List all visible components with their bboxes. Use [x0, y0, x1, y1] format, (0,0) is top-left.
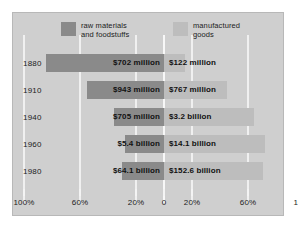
- row-value-raw-materials: $705 million: [113, 112, 160, 121]
- axis-tick-label: 60%: [240, 198, 256, 207]
- axis-tick-label: 0: [162, 198, 167, 207]
- axis-tick: [163, 189, 165, 196]
- chart-row: 1910$943 million$767 million: [13, 78, 285, 104]
- legend-label-manufactured-goods: manufactured goods: [193, 21, 240, 39]
- axis-tick: [79, 189, 81, 196]
- legend-item-raw-materials: raw materials and foodstuffs: [61, 21, 129, 39]
- row-value-raw-materials: $702 million: [113, 58, 160, 67]
- chart-legend: raw materials and foodstuffs manufacture…: [13, 18, 285, 48]
- chart-row: 1980$64.1 billion$152.6 billion: [13, 159, 285, 185]
- row-year-label: 1910: [23, 86, 57, 95]
- axis-tick: [191, 189, 193, 196]
- legend-label-raw-materials: raw materials and foodstuffs: [81, 21, 129, 39]
- row-value-raw-materials: $64.1 billion: [113, 166, 160, 175]
- axis-tick-label: 60%: [72, 198, 88, 207]
- chart-x-axis: 100%60%20%020%60%100%: [13, 189, 285, 215]
- row-value-manufactured-goods: $152.6 billion: [169, 166, 221, 175]
- row-year-label: 1980: [23, 167, 57, 176]
- row-value-manufactured-goods: $767 million: [169, 85, 216, 94]
- axis-tick-label: 20%: [184, 198, 200, 207]
- chart-screenshot: raw materials and foodstuffs manufacture…: [0, 0, 298, 234]
- row-year-label: 1940: [23, 113, 57, 122]
- axis-tick: [135, 189, 137, 196]
- axis-tick: [247, 189, 249, 196]
- chart-plate: raw materials and foodstuffs manufacture…: [12, 12, 284, 216]
- axis-tick-label: 100%: [14, 198, 35, 207]
- axis-tick: [23, 189, 25, 196]
- row-value-manufactured-goods: $3.2 billion: [169, 112, 212, 121]
- axis-tick-label: 20%: [128, 198, 144, 207]
- legend-item-manufactured-goods: manufactured goods: [173, 21, 240, 39]
- row-value-raw-materials: $5.4 billion: [117, 139, 160, 148]
- legend-swatch-raw-materials: [61, 22, 76, 36]
- row-value-manufactured-goods: $122 million: [169, 58, 216, 67]
- row-value-raw-materials: $943 million: [113, 85, 160, 94]
- chart-row: 1880$702 million$122 million: [13, 51, 285, 77]
- chart-row: 1940$705 million$3.2 billion: [13, 105, 285, 131]
- row-year-label: 1960: [23, 140, 57, 149]
- axis-tick-label: 100%: [294, 198, 298, 207]
- row-value-manufactured-goods: $14.1 billion: [169, 139, 216, 148]
- chart-row: 1960$5.4 billion$14.1 billion: [13, 132, 285, 158]
- legend-swatch-manufactured-goods: [173, 22, 188, 36]
